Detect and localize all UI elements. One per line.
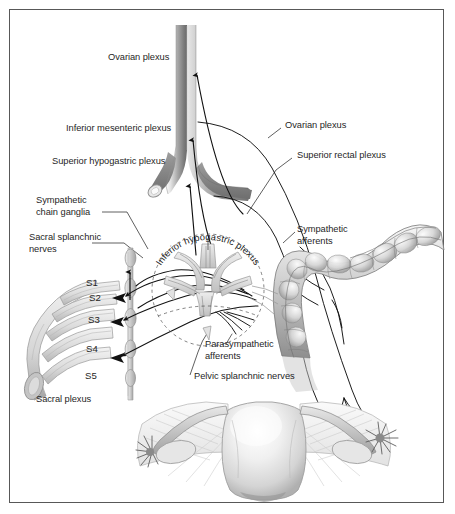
label-sympathetic-chain-ganglia-line1: Sympathetic xyxy=(36,195,87,206)
label-ovarian-plexus-right: Ovarian plexus xyxy=(285,120,346,131)
label-sympathetic-chain-ganglia-line2: chain ganglia xyxy=(36,207,90,218)
label-superior-rectal-plexus: Superior rectal plexus xyxy=(297,150,386,161)
label-sacral-segment-s2: S2 xyxy=(89,292,101,303)
label-ovarian-plexus-left: Ovarian plexus xyxy=(108,52,169,63)
label-superior-hypogastric-plexus: Superior hypogastric plexus xyxy=(52,156,165,167)
label-sympathetic-afferents-line1: Sympathetic xyxy=(297,224,348,235)
label-sacral-splanchnic-nerves-line2: nerves xyxy=(29,244,57,255)
anatomy-illustration: Inferior hypogastric plexus xyxy=(0,0,455,514)
sympathetic-chain xyxy=(125,248,136,400)
uterus-and-adnexa xyxy=(136,402,398,502)
label-sacral-segment-s5: S5 xyxy=(85,370,97,381)
label-sacral-splanchnic-nerves-line1: Sacral splanchnic xyxy=(29,232,101,243)
sigmoid-colon xyxy=(273,223,444,392)
label-sacral-segment-s1: S1 xyxy=(86,277,98,288)
label-parasympathetic-afferents-line2: afferents xyxy=(205,351,241,362)
anatomy-figure: Inferior hypogastric plexus Ovarian plex… xyxy=(0,0,455,514)
label-inferior-mesenteric-plexus: Inferior mesenteric plexus xyxy=(66,123,171,134)
label-sacral-segment-s3: S3 xyxy=(88,314,100,325)
sacral-plexus-trunk xyxy=(21,280,120,402)
label-sacral-plexus: Sacral plexus xyxy=(36,394,91,405)
label-pelvic-splanchnic-nerves: Pelvic splanchnic nerves xyxy=(194,371,295,382)
label-sacral-segment-s4: S4 xyxy=(86,343,98,354)
label-parasympathetic-afferents-line1: Parasympathetic xyxy=(205,339,274,350)
label-sympathetic-afferents-line2: afferents xyxy=(297,236,333,247)
